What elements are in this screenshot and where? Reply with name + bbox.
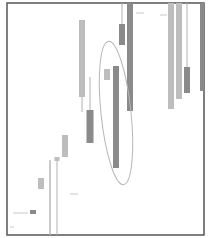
candle-body [184,67,190,93]
candle-body [87,110,94,143]
candle-body [176,3,182,99]
candle [55,157,60,235]
chart-frame [7,3,204,235]
candle [104,69,110,80]
candle [87,77,94,143]
candle [113,66,119,168]
candle [184,3,190,93]
candle [62,135,68,157]
candle [176,3,182,99]
candle-body [55,157,60,161]
candle-body [38,178,44,189]
candle-body [127,3,133,111]
candle-body [50,160,51,235]
candle [50,160,51,235]
candlestick-chart [0,0,210,238]
candle-body [79,20,85,97]
candle-body [119,24,125,45]
candle-body [113,66,119,168]
candles [30,3,204,235]
candle-body [168,3,174,109]
candle-body [104,69,110,80]
candle [30,210,36,214]
candle-body [62,135,68,157]
candle [79,20,85,112]
candle [119,3,125,45]
candle [200,3,204,91]
candle [168,3,174,109]
candle-body [200,3,204,91]
candle-body [30,210,36,214]
candle [38,178,44,189]
candle [127,3,133,111]
